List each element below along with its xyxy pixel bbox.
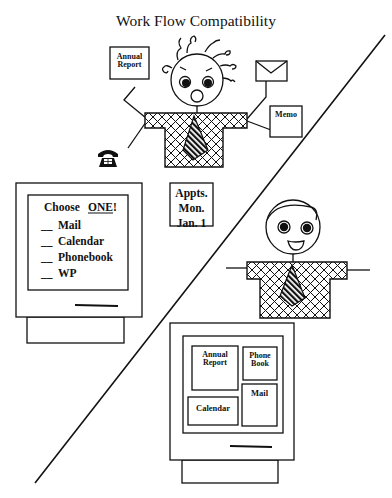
menu-option-wp: __WP <box>41 267 77 279</box>
option-blank: __ <box>41 251 58 263</box>
appointments-line3: Jan. 1 <box>170 216 213 231</box>
option-blank: __ <box>41 235 58 247</box>
window-phone-book-label: Phone Book <box>243 352 277 369</box>
window-annual-report-label: Annual Report <box>192 351 238 368</box>
window-phone-line2: Book <box>243 360 277 368</box>
menu-option-phonebook: __Phonebook <box>41 251 113 263</box>
option-label: Calendar <box>58 235 104 247</box>
appointments-line2: Mon. <box>170 201 213 216</box>
option-blank: __ <box>41 219 58 231</box>
annual-report-line2: Report <box>110 61 149 69</box>
option-label: Mail <box>58 219 81 231</box>
option-blank: __ <box>41 267 58 279</box>
right-monitor <box>170 323 294 483</box>
memo-label: Memo <box>270 111 302 119</box>
envelope-icon <box>256 61 287 81</box>
menu-option-mail: __Mail <box>41 219 81 231</box>
window-mail-label: Mail <box>242 389 277 398</box>
menu-option-calendar: __Calendar <box>41 235 104 247</box>
choose-emphasis: ONE! <box>88 201 117 213</box>
appointments-line1: Appts. <box>170 186 213 201</box>
diagram-canvas <box>0 0 392 498</box>
option-label: Phonebook <box>58 251 113 263</box>
annual-report-label: Annual Report <box>110 53 149 70</box>
appointments-label: Appts. Mon. Jan. 1 <box>170 186 213 231</box>
window-annual-line2: Report <box>192 359 238 367</box>
choose-prompt: Choose <box>44 201 80 213</box>
option-label: WP <box>58 267 77 279</box>
telephone-icon <box>98 150 118 167</box>
window-calendar-label: Calendar <box>188 404 238 413</box>
